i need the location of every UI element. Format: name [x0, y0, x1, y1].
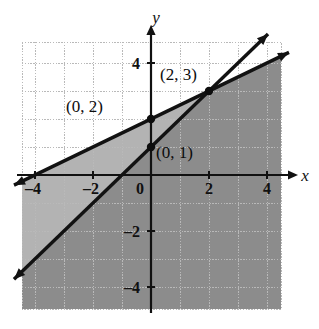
tick-label: 0 [136, 180, 144, 197]
point-0-1 [147, 143, 155, 151]
tick-label: 2 [205, 180, 213, 197]
tick-label: –4 [24, 180, 41, 197]
y-axis-label: y [150, 8, 160, 27]
point-label-0-2: (0, 2) [66, 97, 103, 116]
tick-label: 4 [263, 180, 271, 197]
x-axis-label: x [300, 166, 309, 185]
point-label-0-1: (0, 1) [156, 143, 193, 162]
tick-label: 4 [132, 55, 140, 72]
graph-canvas: –4–20244–2–4 (0, 2) (2, 3) (0, 1) x y [0, 0, 319, 329]
point-label-2-3: (2, 3) [160, 65, 197, 84]
point-2-3 [205, 87, 213, 95]
tick-label: –2 [82, 180, 99, 197]
point-0-2 [147, 115, 155, 123]
coordinate-plane-figure: –4–20244–2–4 (0, 2) (2, 3) (0, 1) x y [0, 0, 319, 329]
tick-label: –4 [123, 279, 140, 296]
tick-label: –2 [123, 223, 140, 240]
